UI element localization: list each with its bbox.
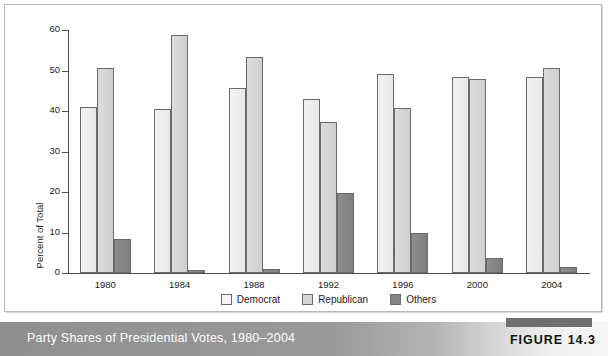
y-axis-tick-label-wrap: 50 <box>5 71 60 72</box>
bar-others-2000 <box>486 258 503 273</box>
legend-item-republican: Republican <box>302 294 368 305</box>
bar-group <box>452 30 503 273</box>
figure-badge-block <box>506 318 592 327</box>
y-axis-tick-label-wrap: 20 <box>5 192 60 193</box>
bar-democrat-2000 <box>452 77 469 273</box>
y-axis-tick-label: 50 <box>14 64 60 75</box>
bar-democrat-2004 <box>526 77 543 273</box>
y-axis-tick-label-wrap: 10 <box>5 233 60 234</box>
x-axis-tick-label: 2000 <box>440 279 514 290</box>
bar-group <box>303 30 354 273</box>
x-axis-tick-label: 1988 <box>217 279 291 290</box>
x-axis-line <box>68 273 590 274</box>
bar-republican-1980 <box>97 68 114 273</box>
bar-democrat-1992 <box>303 99 320 273</box>
y-axis-tick-label-wrap: 0 <box>5 273 60 274</box>
bar-republican-1988 <box>246 57 263 273</box>
bar-republican-2000 <box>469 79 486 273</box>
legend-label: Others <box>406 294 436 305</box>
figure-number-label: FIGURE 14.3 <box>488 333 596 347</box>
bar-others-1996 <box>411 233 428 274</box>
x-axis-tick-label: 2004 <box>515 279 589 290</box>
bar-others-1988 <box>263 269 280 273</box>
legend-swatch-republican <box>302 294 313 305</box>
chart-frame: 0102030405060 Percent of Total DemocratR… <box>4 4 602 312</box>
bar-group <box>80 30 131 273</box>
y-axis-tick <box>62 273 68 274</box>
legend-label: Republican <box>318 294 368 305</box>
bar-democrat-1996 <box>377 74 394 273</box>
figure-badge: FIGURE 14.3 <box>488 322 600 356</box>
bar-republican-1992 <box>320 122 337 273</box>
bar-others-1980 <box>114 239 131 273</box>
bar-republican-1984 <box>171 35 188 273</box>
y-axis-tick-label: 60 <box>14 23 60 34</box>
bar-republican-1996 <box>394 108 411 273</box>
legend-item-others: Others <box>390 294 436 305</box>
y-axis-tick-label-wrap: 60 <box>5 30 60 31</box>
legend-label: Democrat <box>237 294 280 305</box>
legend-item-democrat: Democrat <box>221 294 280 305</box>
x-axis-tick-label: 1996 <box>366 279 440 290</box>
figure-container: 0102030405060 Percent of Total DemocratR… <box>0 0 608 356</box>
y-axis-title-wrap: Percent of Total <box>25 126 26 127</box>
caption-title: Party Shares of Presidential Votes, 1980… <box>27 331 295 345</box>
bar-group <box>154 30 205 273</box>
bar-others-1992 <box>337 193 354 273</box>
bar-republican-2004 <box>543 68 560 273</box>
caption-bar: Party Shares of Presidential Votes, 1980… <box>0 322 608 356</box>
bar-democrat-1984 <box>154 109 171 273</box>
plot-area <box>68 26 589 273</box>
legend-swatch-democrat <box>221 294 232 305</box>
bar-group <box>229 30 280 273</box>
y-axis-tick-label: 40 <box>14 104 60 115</box>
bar-democrat-1988 <box>229 88 246 273</box>
chart-legend: DemocratRepublicanOthers <box>68 294 589 305</box>
y-axis-tick-label-wrap: 30 <box>5 152 60 153</box>
x-axis-tick-label: 1992 <box>291 279 365 290</box>
bar-others-2004 <box>560 267 577 273</box>
legend-swatch-others <box>390 294 401 305</box>
bar-others-1984 <box>188 270 205 273</box>
y-axis-tick-label-wrap: 40 <box>5 111 60 112</box>
x-axis-tick-label: 1984 <box>142 279 216 290</box>
bar-democrat-1980 <box>80 107 97 273</box>
bar-group <box>526 30 577 273</box>
bar-group <box>377 30 428 273</box>
y-axis-tick-label: 30 <box>14 145 60 156</box>
y-axis-title: Percent of Total <box>34 176 45 296</box>
x-axis-tick-label: 1980 <box>68 279 142 290</box>
